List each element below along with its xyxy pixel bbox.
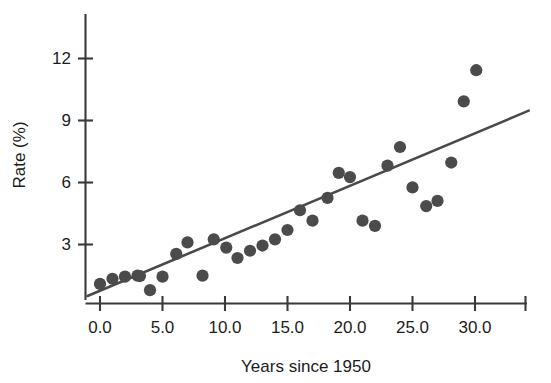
data-point: [208, 233, 220, 245]
data-point: [344, 171, 356, 183]
data-point: [181, 236, 193, 248]
data-point: [394, 141, 406, 153]
data-point: [306, 215, 318, 227]
chart-svg: 12 9 6 3 0.05.010.015.020.025.030.0 Year…: [0, 0, 551, 383]
y-axis-tick-labels: 12 9 6 3: [52, 49, 71, 254]
data-point: [196, 270, 208, 282]
data-point: [381, 160, 393, 172]
data-point: [170, 248, 182, 260]
data-point: [445, 156, 457, 168]
x-tick-label-0.0: 0.0: [88, 318, 112, 337]
data-point: [470, 64, 482, 76]
data-point: [119, 271, 131, 283]
y-tick-label-6: 6: [62, 173, 71, 192]
y-tick-label-12: 12: [52, 49, 71, 68]
data-point: [220, 242, 232, 254]
y-tick-label-3: 3: [62, 235, 71, 254]
data-point: [431, 195, 443, 207]
data-point: [294, 204, 306, 216]
x-tick-label-15.0: 15.0: [271, 318, 304, 337]
data-point: [231, 252, 243, 264]
x-tick-label-25.0: 25.0: [396, 318, 429, 337]
x-tick-label-10.0: 10.0: [208, 318, 241, 337]
data-point: [281, 224, 293, 236]
data-point: [134, 270, 146, 282]
x-axis-title: Years since 1950: [241, 357, 371, 376]
x-tick-label-5.0: 5.0: [151, 318, 175, 337]
data-points: [94, 64, 482, 296]
x-tick-label-30.0: 30.0: [458, 318, 491, 337]
data-point: [406, 181, 418, 193]
data-point: [321, 192, 333, 204]
data-point: [458, 95, 470, 107]
data-point: [94, 278, 106, 290]
x-tick-label-20.0: 20.0: [333, 318, 366, 337]
data-point: [106, 273, 118, 285]
x-axis-tick-labels: 0.05.010.015.020.025.030.0: [88, 318, 491, 337]
data-point: [269, 233, 281, 245]
data-point: [420, 200, 432, 212]
data-point: [333, 167, 345, 179]
regression-line: [88, 111, 529, 296]
y-tick-label-9: 9: [62, 111, 71, 130]
data-point: [256, 239, 268, 251]
data-point: [356, 215, 368, 227]
scatter-plot-figure: 12 9 6 3 0.05.010.015.020.025.030.0 Year…: [0, 0, 551, 383]
data-point: [144, 284, 156, 296]
data-point: [244, 245, 256, 257]
data-point: [369, 220, 381, 232]
y-axis-title: Rate (%): [10, 121, 29, 188]
data-point: [156, 271, 168, 283]
